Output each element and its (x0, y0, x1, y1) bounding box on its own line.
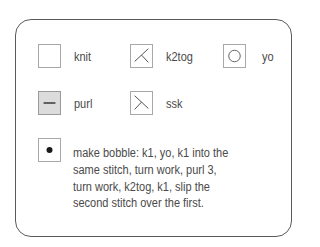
purl-label: purl (74, 98, 92, 111)
ssk-symbol-icon (130, 91, 153, 115)
bobble-line: same stitch, turn work, purl 3, (73, 162, 275, 179)
yo-symbol-icon (223, 44, 246, 68)
bobble-description: make bobble: k1, yo, k1 into the same st… (73, 145, 275, 212)
bobble-line: second stitch over the first. (73, 195, 275, 212)
ssk-label: ssk (166, 98, 183, 111)
knit-label: knit (74, 51, 91, 64)
k2tog-symbol-icon (130, 44, 153, 68)
bobble-line: turn work, k2tog, k1, slip the (73, 179, 275, 196)
yo-label: yo (262, 51, 274, 64)
bobble-symbol-icon (38, 138, 61, 162)
bobble-line: make bobble: k1, yo, k1 into the (73, 145, 275, 162)
k2tog-label: k2tog (166, 51, 193, 64)
knit-symbol-icon (38, 44, 61, 68)
purl-symbol-icon (38, 91, 61, 115)
